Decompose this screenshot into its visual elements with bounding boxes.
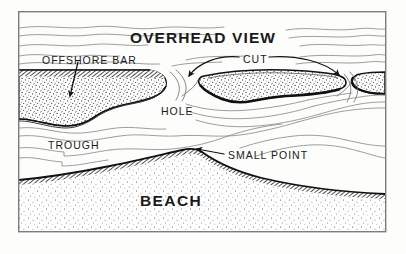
diagram-canvas: OVERHEAD VIEW OFFSHORE BAR CUT HOLE TROU… (0, 0, 406, 254)
label-trough: TROUGH (48, 140, 100, 151)
label-small-point: SMALL POINT (228, 150, 308, 161)
label-offshore-bar: OFFSHORE BAR (42, 55, 137, 66)
label-hole: HOLE (161, 106, 194, 117)
label-beach: BEACH (140, 193, 202, 209)
diagram-title: OVERHEAD VIEW (130, 30, 276, 46)
label-cut: CUT (243, 54, 268, 65)
